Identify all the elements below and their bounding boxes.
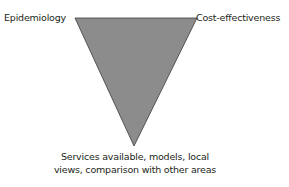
vertex-label-services-line-1: Services available, models, local — [40, 150, 230, 163]
vertex-label-services: Services available, models, local views,… — [40, 150, 230, 176]
vertex-label-epidemiology: Epidemiology — [4, 12, 66, 23]
vertex-label-services-line-2: views, comparison with other areas — [40, 163, 230, 176]
inverted-triangle-shape — [75, 18, 197, 146]
vertex-label-cost-effectiveness: Cost-effectiveness — [196, 12, 280, 23]
